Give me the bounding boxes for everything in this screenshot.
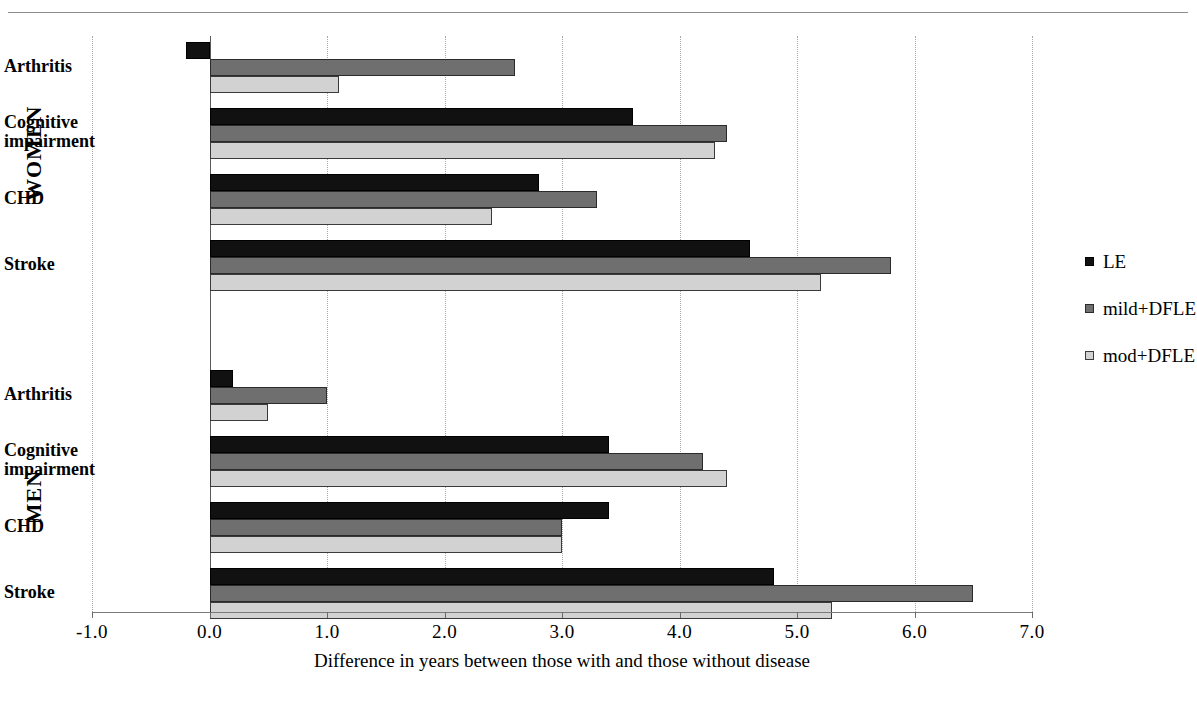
bar-men-cognitive-impairment-mild-dfle (210, 453, 704, 470)
gridline-4 (680, 36, 682, 612)
plot-area: ArthritisCognitiveimpairmentCHDStrokeArt… (92, 36, 1032, 612)
bar-men-chd-le (210, 502, 610, 519)
bar-women-stroke-mild-dfle (210, 257, 892, 274)
legend-item-le[interactable]: LE (1085, 238, 1197, 285)
x-tick-mark (562, 612, 563, 618)
legend-item-mild-dfle[interactable]: mild+DFLE (1085, 285, 1197, 332)
bar-men-stroke-mod-dfle (210, 602, 833, 619)
bar-men-stroke-mild-dfle (210, 585, 974, 602)
bar-men-arthritis-le (210, 370, 234, 387)
bar-women-cognitive-impairment-mod-dfle (210, 142, 715, 159)
x-tick-label: 2.0 (415, 621, 475, 643)
category-label-arthritis: Arthritis (4, 385, 88, 404)
category-label-arthritis: Arthritis (4, 57, 88, 76)
x-tick-label: 3.0 (532, 621, 592, 643)
gridline-5 (797, 36, 799, 612)
bar-men-cognitive-impairment-mod-dfle (210, 470, 727, 487)
x-tick-label: 7.0 (1002, 621, 1062, 643)
bar-men-chd-mild-dfle (210, 519, 563, 536)
legend-label-le: LE (1103, 251, 1126, 273)
gridline-7 (1032, 36, 1034, 612)
bar-women-chd-mod-dfle (210, 208, 492, 225)
x-tick-mark (327, 612, 328, 618)
x-tick-mark (915, 612, 916, 618)
bar-men-arthritis-mod-dfle (210, 404, 269, 421)
bar-women-stroke-mod-dfle (210, 274, 821, 291)
legend-swatch-mod-dfle-icon (1085, 351, 1094, 360)
gridline-6 (915, 36, 917, 612)
x-tick-mark (680, 612, 681, 618)
page-top-rule (8, 12, 1188, 13)
bar-men-stroke-le (210, 568, 774, 585)
bar-men-arthritis-mild-dfle (210, 387, 328, 404)
legend-swatch-mild-dfle-icon (1085, 304, 1094, 313)
x-tick-label: 1.0 (297, 621, 357, 643)
bar-women-arthritis-mild-dfle (210, 59, 516, 76)
bar-women-arthritis-mod-dfle (210, 76, 339, 93)
bar-women-cognitive-impairment-le (210, 108, 633, 125)
category-label-cognitive-impairment: Cognitiveimpairment (4, 441, 88, 480)
legend-item-mod-dfle[interactable]: mod+DFLE (1085, 332, 1197, 379)
category-label-stroke: Stroke (4, 583, 88, 602)
x-axis-title: Difference in years between those with a… (92, 650, 1032, 672)
bar-women-stroke-le (210, 240, 751, 257)
legend-swatch-le-icon (1085, 257, 1094, 266)
legend-label-mod-dfle: mod+DFLE (1103, 345, 1195, 367)
x-tick-mark (92, 612, 93, 618)
x-tick-label: 6.0 (885, 621, 945, 643)
bar-men-chd-mod-dfle (210, 536, 563, 553)
x-tick-mark (445, 612, 446, 618)
x-tick-mark (1032, 612, 1033, 618)
bar-men-cognitive-impairment-le (210, 436, 610, 453)
bar-women-chd-le (210, 174, 539, 191)
x-tick-label: 4.0 (650, 621, 710, 643)
category-label-chd: CHD (4, 189, 88, 208)
bar-women-cognitive-impairment-mild-dfle (210, 125, 727, 142)
gridline-neg1 (92, 36, 94, 612)
category-label-stroke: Stroke (4, 255, 88, 274)
x-tick-label: 0.0 (180, 621, 240, 643)
x-tick-mark (797, 612, 798, 618)
x-tick-mark (210, 612, 211, 618)
x-tick-label: -1.0 (62, 621, 122, 643)
legend-label-mild-dfle: mild+DFLE (1103, 298, 1196, 320)
chart-page: WOMEN MEN ArthritisCognitiveimpairmentCH… (0, 0, 1197, 701)
bar-women-arthritis-le (186, 42, 210, 59)
chart-legend: LE mild+DFLE mod+DFLE (1085, 238, 1197, 379)
bar-women-chd-mild-dfle (210, 191, 598, 208)
category-label-chd: CHD (4, 517, 88, 536)
category-label-cognitive-impairment: Cognitiveimpairment (4, 113, 88, 152)
x-tick-label: 5.0 (767, 621, 827, 643)
